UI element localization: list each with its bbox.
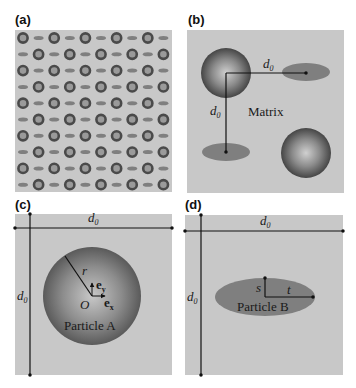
lattice-particle-a (50, 99, 59, 108)
lattice-particle-a (50, 33, 59, 42)
lattice-particle-a (65, 148, 74, 157)
lattice-particle-a (159, 50, 168, 59)
lattice-particle-b (158, 166, 168, 170)
lattice-particle-b (49, 150, 59, 154)
panel-c: (c) d0 d0 r ey ex O Particle A (15, 197, 172, 375)
lattice-particle-a (34, 82, 43, 91)
matrix-label: Matrix (248, 104, 284, 119)
lattice-particle-a (112, 33, 121, 42)
lattice-particle-a (34, 115, 43, 124)
lattice-particle-a (128, 115, 137, 124)
lattice-particle-a (96, 50, 105, 59)
lattice-particle-a (112, 99, 121, 108)
lattice-particle-b (112, 183, 122, 187)
lattice-particle-b (127, 36, 137, 40)
lattice-particle-b (127, 101, 137, 105)
panel-b: (b) d0 d0 Matrix (187, 12, 344, 193)
lattice-particle-a (18, 99, 27, 108)
lattice-particle-a (81, 66, 90, 75)
lattice-particle-a (128, 148, 137, 157)
lattice-particle-b (96, 69, 106, 73)
lattice-particle-a (50, 66, 59, 75)
panel-c-label: (c) (15, 197, 31, 212)
lattice-particle-a (96, 180, 105, 189)
lattice-particle-a (81, 164, 90, 173)
lattice-particle-b (112, 150, 122, 154)
lattice-particle-b (18, 85, 28, 89)
lattice-particle-b (158, 101, 168, 105)
lattice-particle-a (18, 164, 27, 173)
lattice-particle-b (65, 134, 75, 138)
lattice-particle-b (18, 52, 28, 56)
panel-a-label: (a) (15, 12, 31, 27)
lattice-particle-b (65, 36, 75, 40)
lattice-particle-b (34, 101, 44, 105)
lattice-particle-a (159, 82, 168, 91)
lattice-particle-b (80, 118, 90, 122)
lattice-particle-b (49, 85, 59, 89)
lattice-particle-b (143, 150, 153, 154)
panel-d-label: (d) (185, 197, 202, 212)
lattice-particle-a (81, 33, 90, 42)
lattice-particle-a (159, 148, 168, 157)
lattice-particle-b (80, 183, 90, 187)
particle-a-label: Particle A (64, 318, 116, 333)
lattice-particle-a (112, 164, 121, 173)
lattice-particle-b (96, 101, 106, 105)
lattice-particle-b (18, 150, 28, 154)
origin-label: O (80, 297, 90, 312)
lattice-particle-b (34, 166, 44, 170)
lattice-particle-a (50, 164, 59, 173)
lattice-particle-b (65, 166, 75, 170)
cell-width-label: d0 (88, 210, 99, 227)
lattice-particle-b (158, 69, 168, 73)
lattice-particle-a (128, 82, 137, 91)
lattice-particle-a (128, 180, 137, 189)
lattice-particle-b (96, 36, 106, 40)
lattice-particle-b (158, 36, 168, 40)
lattice-particle-b (49, 52, 59, 56)
lattice-particle-a (18, 33, 27, 42)
lattice-particle-b (18, 118, 28, 122)
lattice-particle-a (34, 180, 43, 189)
lattice-particle-a (65, 82, 74, 91)
lattice-particle-b (34, 36, 44, 40)
lattice-particle-b (80, 52, 90, 56)
lattice-particle-a (159, 115, 168, 124)
lattice-particle-a (96, 115, 105, 124)
lattice-particle-b (49, 118, 59, 122)
lattice-particle-a (143, 99, 152, 108)
lattice-particle-b (34, 69, 44, 73)
lattice-particle-b (143, 183, 153, 187)
lattice-particle-a (143, 131, 152, 140)
lattice-particle-b (80, 150, 90, 154)
particle-a-bottom-right (281, 128, 331, 178)
lattice-particle-b (112, 52, 122, 56)
lattice-particle-a (65, 180, 74, 189)
lattice-particle-a (65, 50, 74, 59)
lattice-particle-a (143, 66, 152, 75)
panel-a: (a) (15, 12, 172, 192)
lattice-particle-b (127, 134, 137, 138)
lattice-particle-a (50, 131, 59, 140)
panel-d: (d) d0 d0 s t Particle B (185, 197, 343, 375)
lattice-particle-b (127, 166, 137, 170)
lattice-particle-b (158, 134, 168, 138)
lattice-particle-b (112, 118, 122, 122)
lattice-particle-a (96, 148, 105, 157)
lattice-particle-b (65, 69, 75, 73)
lattice-particle-a (81, 99, 90, 108)
panel-b-label: (b) (188, 12, 205, 27)
semi-major-label: t (287, 282, 291, 297)
lattice-particle-a (34, 148, 43, 157)
figure: (a) (b) d0 d0 Matrix (c) d0 d0 r ey ex O… (0, 0, 356, 388)
lattice-particle-a (159, 180, 168, 189)
lattice-particle-b (143, 118, 153, 122)
lattice-particle-a (34, 50, 43, 59)
particle-b-top-right (282, 63, 330, 81)
lattice-particle-a (96, 82, 105, 91)
lattice-particle-a (81, 131, 90, 140)
lattice-particle-a (112, 131, 121, 140)
particle-b-label: Particle B (237, 299, 289, 314)
lattice-particle-b (96, 166, 106, 170)
